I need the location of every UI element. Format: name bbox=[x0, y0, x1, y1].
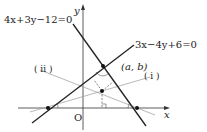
point-x-intercept-line1 bbox=[135, 106, 139, 110]
angle-arc-right bbox=[128, 103, 130, 108]
origin-label: O bbox=[74, 113, 82, 123]
equation-line2: 3x−4y+6=0 bbox=[135, 40, 197, 50]
point-a-b bbox=[100, 89, 104, 93]
bisector-label-ii: ( ii ) bbox=[34, 65, 53, 74]
y-axis-arrow-icon bbox=[81, 4, 85, 10]
y-axis-label: y bbox=[74, 6, 80, 16]
perpendicular-to-line2 bbox=[94, 80, 102, 91]
point-x-intercept-line2 bbox=[46, 106, 50, 110]
right-angle-mark bbox=[102, 104, 106, 108]
equation-line1: 4x+3y−12=0 bbox=[4, 15, 72, 25]
point-intersection bbox=[101, 64, 105, 68]
x-axis-label: x bbox=[164, 110, 170, 120]
bisector-label-i: ( i ) bbox=[144, 72, 160, 81]
